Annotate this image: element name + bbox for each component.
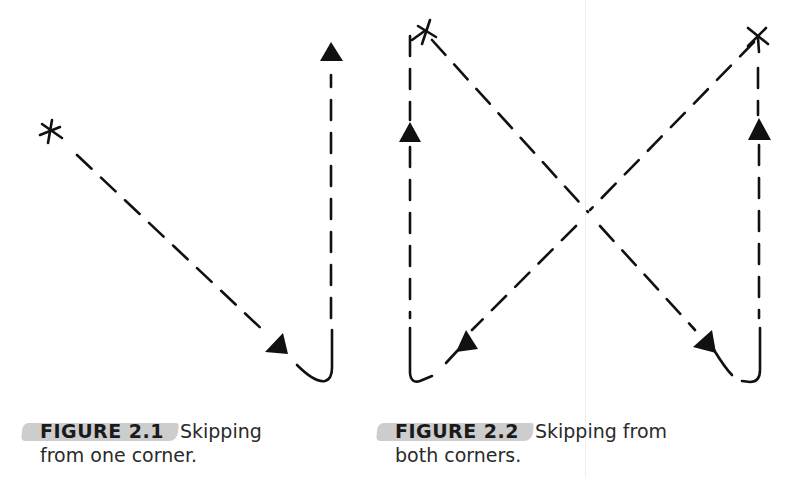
right-diagonal-tail [714, 350, 732, 375]
caption-text-line2: both corners. [395, 443, 667, 467]
diagonal-path [77, 155, 268, 335]
figure-label: FIGURE 2.2 [395, 420, 519, 442]
arrow-down-right-icon [693, 330, 716, 353]
arrow-down-left-icon [456, 330, 478, 352]
right-corner-curve [742, 328, 760, 382]
left-diagonal-tail [446, 350, 458, 363]
diagonal-center-to-br [600, 226, 695, 330]
arrow-up-right-icon [748, 118, 771, 140]
caption-text: Skipping from [535, 420, 667, 442]
diagonal-center-to-bl [472, 226, 576, 330]
start-star-icon [40, 120, 62, 143]
corner-curve [297, 330, 332, 381]
left-corner-curve [410, 328, 432, 382]
start-star-top-right-icon [748, 28, 768, 52]
diagonal-tl-to-center [432, 40, 588, 212]
figure-2-1-caption: FIGURE 2.1Skipping from one corner. [40, 419, 262, 467]
figures-canvas: .dash { stroke: #111; stroke-width: 2.6;… [0, 0, 801, 477]
caption-text: Skipping [180, 420, 262, 442]
figure-2-2-diagram [399, 20, 771, 382]
diagonal-tr-to-center [590, 42, 754, 210]
figure-2-1-diagram [40, 42, 343, 381]
arrow-up-icon [320, 42, 343, 61]
figure-label: FIGURE 2.1 [40, 420, 164, 442]
figure-2-2-caption: FIGURE 2.2Skipping from both corners. [395, 419, 667, 467]
caption-text-line2: from one corner. [40, 443, 262, 467]
arrow-down-right-icon [265, 333, 288, 354]
arrow-up-left-icon [399, 122, 421, 142]
